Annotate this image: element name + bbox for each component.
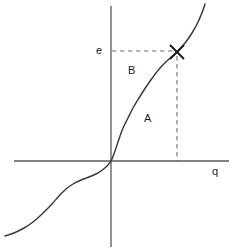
- x-axis-label: q: [212, 166, 218, 177]
- y-axis-label: e: [96, 45, 102, 56]
- figure-canvas: [0, 0, 232, 251]
- region-label-a: A: [144, 113, 151, 124]
- supply-curve: [5, 4, 205, 236]
- economics-supply-curve-figure: e q A B: [0, 0, 232, 251]
- region-label-b: B: [128, 65, 135, 76]
